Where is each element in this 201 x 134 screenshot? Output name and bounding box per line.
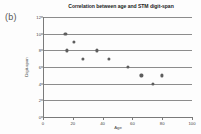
x-tick-mark-80 bbox=[162, 118, 163, 120]
y-tick-mark-8 bbox=[41, 50, 43, 51]
plot-area bbox=[43, 17, 192, 117]
panel-label: (b) bbox=[5, 12, 17, 22]
chart-title: Correlation between age and STM digit-sp… bbox=[46, 3, 196, 9]
x-tick-mark-0 bbox=[43, 118, 44, 120]
gridline-y-2 bbox=[43, 100, 192, 101]
x-tick-mark-20 bbox=[73, 118, 74, 120]
gridline-y-6 bbox=[43, 67, 192, 68]
data-point bbox=[161, 74, 164, 77]
x-tick-mark-60 bbox=[132, 118, 133, 120]
y-tick-mark-12 bbox=[41, 17, 43, 18]
y-tick-mark-10 bbox=[41, 33, 43, 34]
data-point bbox=[64, 32, 67, 35]
data-point bbox=[65, 49, 68, 52]
y-tick-mark-6 bbox=[41, 67, 43, 68]
gridline-y-12 bbox=[43, 17, 192, 18]
x-tick-mark-100 bbox=[192, 118, 193, 120]
data-point bbox=[82, 57, 85, 60]
chart-figure: (b) Correlation between age and STM digi… bbox=[0, 0, 201, 134]
x-axis-label: Age bbox=[43, 125, 193, 130]
data-point bbox=[126, 65, 129, 68]
data-point bbox=[107, 57, 110, 60]
y-tick-mark-2 bbox=[41, 100, 43, 101]
data-point bbox=[95, 49, 98, 52]
data-point bbox=[140, 74, 143, 77]
y-axis-label: Digit-span bbox=[24, 57, 29, 76]
gridline-y-4 bbox=[43, 84, 192, 85]
y-tick-mark-4 bbox=[41, 83, 43, 84]
x-tick-mark-40 bbox=[103, 118, 104, 120]
y-axis-ticks: 024681012 bbox=[43, 17, 44, 117]
data-point bbox=[73, 40, 76, 43]
data-point bbox=[152, 82, 155, 85]
